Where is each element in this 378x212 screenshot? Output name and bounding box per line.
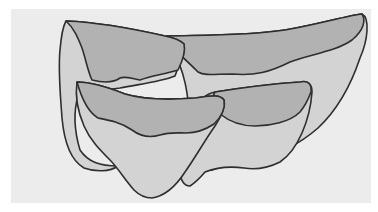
shape-front-left [76, 82, 224, 198]
overlapping-shapes-illustration [0, 0, 378, 212]
